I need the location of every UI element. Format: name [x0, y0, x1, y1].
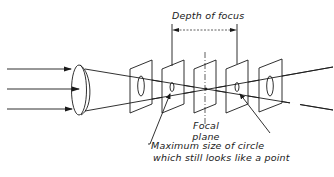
incoming-rays: [7, 69, 79, 109]
focal-point: [205, 88, 207, 90]
max-circle-label-line2: which still looks like a point: [153, 152, 290, 163]
depth-of-focus-label: Depth of focus: [172, 10, 244, 21]
depth-of-focus-diagram: Depth of focus Focal plane Maximum size …: [0, 0, 334, 177]
depth-of-focus-dimension: [172, 24, 237, 66]
plane-4: [226, 60, 248, 113]
plane-5: [259, 59, 282, 112]
lens-icon: [72, 65, 90, 115]
focal-plane-label-line1: Focal: [186, 120, 226, 131]
max-circle-label-line1: Maximum size of circle: [151, 140, 264, 151]
plane-1: [130, 60, 152, 113]
